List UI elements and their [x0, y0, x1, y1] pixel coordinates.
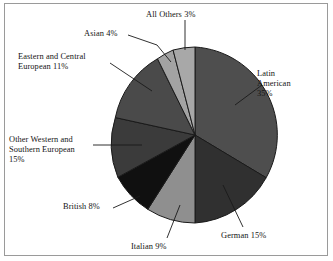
- label-german: German 15%: [221, 231, 311, 241]
- label-british: British 8%: [63, 202, 123, 212]
- label-italian: Italian 9%: [131, 242, 201, 252]
- label-asian: Asian 4%: [84, 29, 132, 39]
- leader-line-asian-stem: [128, 35, 157, 45]
- label-latin-american: Latin American 35%: [257, 69, 329, 100]
- pie-chart-graphic: [0, 0, 333, 261]
- label-other-western-southern-european: Other Western and Southern European 15%: [9, 135, 95, 166]
- pie-chart-page: Latin American 35% German 15% Italian 9%…: [0, 0, 333, 261]
- label-eastern-central-european: Eastern and Central European 11%: [18, 52, 110, 72]
- label-all-others: All Others 3%: [146, 10, 226, 20]
